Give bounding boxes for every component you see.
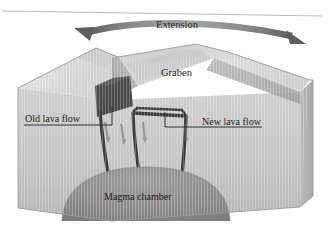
label-new-lava-flow: New lava flow <box>202 117 261 127</box>
label-magma-chamber: Magma chamber <box>104 192 171 202</box>
extension-arrowhead-left <box>74 27 94 41</box>
label-extension: Extension <box>156 20 198 31</box>
figure-page: Extension Graben Old lava flow New lava … <box>0 0 328 229</box>
label-old-lava-flow: Old lava flow <box>25 114 80 124</box>
top-rule <box>2 11 322 16</box>
label-graben: Graben <box>161 68 192 79</box>
